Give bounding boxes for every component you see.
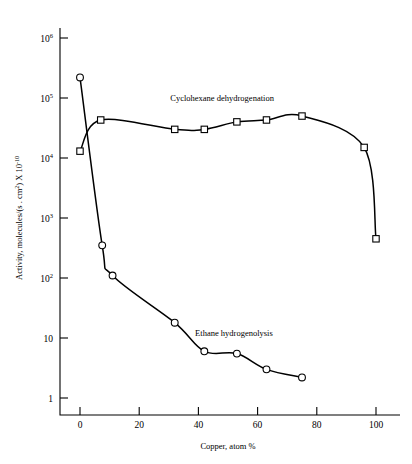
x-tick-label: 40 [194, 420, 204, 430]
x-axis-title: Copper, atom % [200, 441, 255, 451]
data-point-marker [201, 126, 207, 132]
x-tick-label: 80 [312, 420, 322, 430]
data-point-marker [98, 117, 104, 123]
activity-vs-copper-chart: 106105104103102101020406080100Copper, at… [0, 0, 412, 464]
data-point-marker [172, 126, 178, 132]
data-point-marker [361, 144, 367, 150]
data-point-marker [373, 236, 379, 242]
data-point-marker [263, 366, 270, 373]
data-point-marker [263, 117, 269, 123]
data-point-marker [201, 348, 208, 355]
x-tick-label: 100 [369, 420, 384, 430]
y-tick-label: 103 [40, 212, 53, 224]
data-point-marker [171, 319, 178, 326]
y-tick-label: 102 [40, 272, 53, 284]
series-curve [80, 115, 376, 239]
y-axis-title: Activity, molecules/(s . cm2) X 10-10 [14, 156, 24, 280]
x-tick-label: 60 [253, 420, 263, 430]
data-point-marker [99, 242, 106, 249]
y-tick-label: 10 [44, 334, 54, 344]
axes [60, 28, 400, 415]
series-annotation-label: Ethane hydrogenolysis [195, 328, 273, 338]
data-point-marker [77, 74, 84, 81]
svg-text:Activity, molecules/(s . cm2): Activity, molecules/(s . cm2) X 10-10 [14, 156, 24, 280]
y-tick-label: 104 [40, 152, 54, 164]
data-point-marker [299, 374, 306, 381]
data-point-marker [234, 119, 240, 125]
x-axis-ticks: 020406080100 [78, 407, 384, 430]
x-tick-label: 20 [134, 420, 144, 430]
x-tick-label: 0 [78, 420, 83, 430]
y-tick-label: 105 [40, 92, 53, 104]
series-1: Cyclohexane dehydrogenation [77, 93, 379, 242]
chart-figure: 106105104103102101020406080100Copper, at… [0, 0, 412, 464]
data-point-marker [299, 113, 305, 119]
y-axis-ticks: 106105104103102101 [40, 32, 68, 404]
series-annotation-label: Cyclohexane dehydrogenation [170, 93, 274, 103]
y-tick-label: 106 [40, 32, 54, 44]
data-point-marker [233, 350, 240, 357]
data-point-marker [109, 272, 116, 279]
data-point-marker [77, 148, 83, 154]
y-tick-label: 1 [48, 394, 53, 404]
